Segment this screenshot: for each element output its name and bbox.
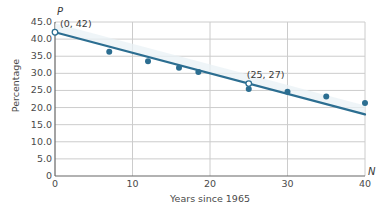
x-axis-title: Years since 1965	[55, 193, 365, 204]
data-point	[362, 100, 368, 106]
x-axis-tick-labels: 010203040	[55, 178, 365, 192]
y-axis-title: Percentage	[10, 36, 21, 136]
y-tick-label: 35.0	[18, 51, 52, 61]
chart-plot-svg	[55, 22, 365, 176]
data-point	[285, 89, 291, 95]
data-point	[323, 94, 329, 100]
y-tick-label: 45.0	[18, 17, 52, 27]
x-tick-label: 0	[40, 178, 70, 190]
plot-area	[55, 22, 365, 176]
highlighted-data-point	[52, 29, 58, 35]
x-tick-label: 10	[118, 178, 148, 190]
data-point	[195, 69, 201, 75]
y-tick-label: 5.0	[18, 154, 52, 164]
point-annotation: (25, 27)	[247, 69, 285, 80]
chart-container: P N 05.010.015.020.025.030.035.040.045.0…	[0, 0, 382, 220]
y-tick-label: 15.0	[18, 120, 52, 130]
y-tick-label: 30.0	[18, 68, 52, 78]
y-tick-label: 25.0	[18, 85, 52, 95]
y-axis-name: P	[57, 6, 63, 17]
point-annotation: (0, 42)	[60, 18, 92, 29]
y-tick-label: 20.0	[18, 103, 52, 113]
data-point	[145, 58, 151, 64]
y-tick-label: 10.0	[18, 137, 52, 147]
x-tick-label: 20	[195, 178, 225, 190]
x-axis-name: N	[368, 166, 375, 177]
highlighted-data-point	[246, 81, 252, 87]
y-tick-label: 40.0	[18, 34, 52, 44]
data-point	[106, 49, 112, 55]
data-point	[176, 65, 182, 71]
x-tick-label: 40	[350, 178, 380, 190]
x-tick-label: 30	[273, 178, 303, 190]
